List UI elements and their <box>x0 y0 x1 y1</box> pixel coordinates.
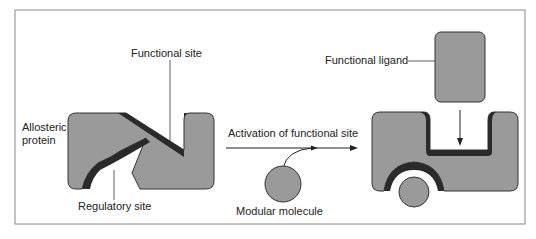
bound-modular-molecule <box>399 177 429 207</box>
label-allosteric: Allosteric <box>22 121 67 133</box>
label-functional-ligand: Functional ligand <box>325 54 408 66</box>
allosteric-diagram: Functional site Allosteric protein Regul… <box>0 0 536 239</box>
label-modular-molecule: Modular molecule <box>236 205 323 217</box>
allosteric-protein-active <box>372 112 518 191</box>
label-activation: Activation of functional site <box>228 127 358 139</box>
allosteric-protein-inactive <box>68 113 214 189</box>
label-functional-site: Functional site <box>131 47 202 59</box>
arrowhead-icon <box>350 145 358 151</box>
functional-ligand <box>435 32 485 102</box>
molecule-path <box>283 148 312 168</box>
modular-molecule <box>265 166 301 202</box>
label-protein: protein <box>22 134 56 146</box>
label-regulatory-site: Regulatory site <box>78 200 151 212</box>
